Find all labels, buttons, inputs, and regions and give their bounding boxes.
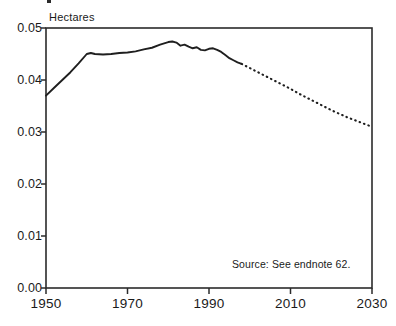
x-tick-label: 2010 [261, 296, 321, 312]
x-tick-label: 1990 [179, 296, 239, 312]
series-historical-line [46, 42, 242, 96]
plot-frame [46, 28, 372, 288]
x-tick-label: 1950 [16, 296, 76, 312]
source-note: Source: See endnote 62. [232, 258, 350, 270]
x-tick-label: 2030 [342, 296, 396, 312]
chart-figure: Hectares 0.000.010.020.030.040.05 195019… [0, 0, 396, 326]
x-tick-marks [46, 288, 372, 294]
x-tick-label: 1970 [98, 296, 158, 312]
plot-area [0, 0, 396, 326]
series-projected-line [242, 64, 372, 127]
